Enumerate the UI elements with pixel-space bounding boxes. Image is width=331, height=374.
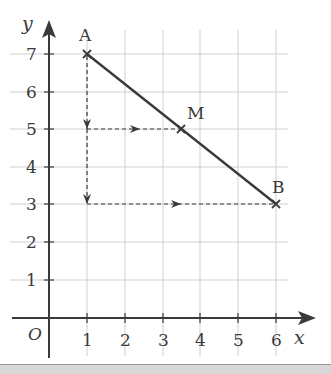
- y-tick-4: 4: [26, 157, 37, 177]
- x-tick-1: 1: [82, 330, 93, 350]
- origin-label: O: [28, 324, 42, 344]
- y-tick-6: 6: [26, 82, 37, 102]
- y-tick-3: 3: [26, 194, 37, 214]
- point-label-b: B: [272, 177, 285, 197]
- bottom-border-strip: [0, 364, 331, 374]
- x-tick-2: 2: [120, 330, 131, 350]
- point-label-m: M: [187, 103, 204, 123]
- y-tick-2: 2: [26, 232, 37, 252]
- y-tick-1: 1: [26, 270, 37, 290]
- ticks: [44, 54, 276, 323]
- x-tick-4: 4: [195, 330, 206, 350]
- axes: [12, 32, 305, 358]
- point-label-a: A: [78, 25, 92, 45]
- x-tick-5: 5: [233, 330, 244, 350]
- x-axis-label: x: [294, 326, 305, 348]
- arrowheads: [83, 119, 181, 208]
- y-axis-label: y: [21, 12, 33, 34]
- x-tick-6: 6: [271, 330, 282, 350]
- grid: [10, 30, 288, 356]
- x-tick-3: 3: [158, 330, 169, 350]
- y-tick-5: 5: [26, 119, 37, 139]
- y-tick-7: 7: [26, 44, 37, 64]
